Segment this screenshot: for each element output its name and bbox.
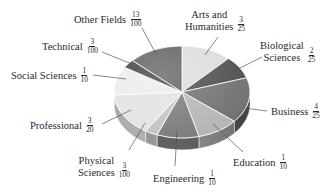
- pie-slices: [114, 46, 250, 138]
- label-arts-humanities: Arts andHumanities 325: [185, 9, 246, 33]
- label-text: Professional: [30, 120, 82, 132]
- label-engineering: Engineering 110: [153, 170, 217, 187]
- label-physical-sciences: PhysicalSciences 3100: [78, 155, 131, 179]
- label-professional: Professional 320: [30, 117, 94, 134]
- label-text: Education: [233, 157, 276, 169]
- fraction: 320: [85, 117, 95, 134]
- label-biological-sciences: BiologicalSciences 225: [260, 40, 316, 64]
- fraction: 13100: [129, 11, 142, 28]
- label-other-fields: Other Fields 13100: [74, 11, 142, 28]
- fraction: 225: [307, 47, 317, 64]
- label-text: PhysicalSciences: [78, 155, 115, 179]
- fraction: 425: [311, 103, 321, 120]
- label-text: Arts andHumanities: [185, 9, 233, 33]
- fraction: 110: [207, 170, 217, 187]
- label-business: Business 425: [271, 103, 321, 120]
- fraction: 110: [279, 154, 289, 171]
- label-text: Social Sciences: [11, 70, 77, 82]
- fraction: 3100: [118, 162, 131, 179]
- fraction: 110: [80, 67, 90, 84]
- label-text: Engineering: [153, 173, 204, 185]
- label-text: BiologicalSciences: [260, 40, 304, 64]
- label-social-sciences: Social Sciences 110: [11, 67, 89, 84]
- label-text: Other Fields: [74, 14, 126, 26]
- label-education: Education 110: [233, 154, 288, 171]
- fraction: 3100: [86, 38, 99, 55]
- fraction: 325: [236, 16, 246, 33]
- label-technical: Technical 3100: [42, 38, 99, 55]
- label-text: Technical: [42, 41, 83, 53]
- label-text: Business: [271, 106, 308, 118]
